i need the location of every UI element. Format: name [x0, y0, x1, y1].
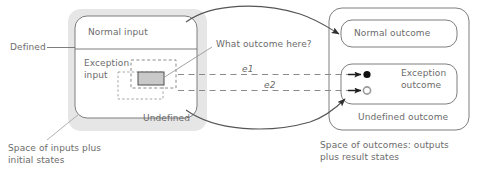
- label-defined: Defined: [10, 42, 46, 53]
- label-question-what-outcome: What outcome here?: [216, 39, 312, 50]
- label-exception-input-line2: input: [84, 70, 108, 81]
- diagram-canvas: Defined Normal input Exception input Und…: [0, 0, 477, 179]
- caption-right-line2: plus result states: [320, 152, 399, 163]
- label-undefined: Undefined: [143, 113, 190, 124]
- label-edge-e2: e2: [264, 80, 275, 91]
- caption-left-line2: initial states: [8, 155, 65, 166]
- mapping-arrow-exception: [186, 99, 345, 129]
- label-exception-outcome-line1: Exception: [401, 68, 446, 79]
- caption-right-line1: Space of outcomes: outputs: [320, 140, 449, 151]
- label-exception-input-line1: Exception: [84, 58, 129, 69]
- label-normal-outcome: Normal outcome: [354, 28, 430, 39]
- label-exception-outcome-line2: outcome: [401, 80, 441, 91]
- caption-left-line1: Space of inputs plus: [8, 143, 101, 154]
- label-undefined-outcome: Undefined outcome: [358, 112, 448, 123]
- mapping-arrow-normal: [186, 6, 339, 34]
- label-edge-e1: e1: [242, 64, 253, 75]
- label-normal-input: Normal input: [88, 27, 148, 38]
